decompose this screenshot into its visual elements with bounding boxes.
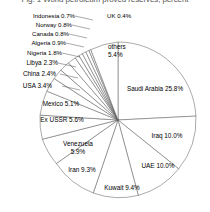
label-venezuela-name: Venezuela <box>63 140 93 147</box>
label-ex-ussr: Ex USSR 5.6% <box>40 116 84 123</box>
label-others-pct: 5.4% <box>108 51 123 58</box>
label-indonesia: Indonesia 0.7% <box>33 12 76 19</box>
leader-line-canada <box>69 34 87 38</box>
label-iran: Iran 9.3% <box>68 166 96 173</box>
label-venezuela-pct: 5.9% <box>71 148 86 155</box>
label-norway: Norway 0.8% <box>36 21 73 28</box>
label-canada: Canada 0.8% <box>32 30 70 37</box>
leader-line-indonesia <box>75 16 93 20</box>
leader-line-nigeria <box>62 53 80 57</box>
label-libya: Libya 2.3% <box>26 59 58 67</box>
label-algeria: Algeria 0.9% <box>31 39 66 46</box>
label-nigeria: Nigeria 1.8% <box>27 49 62 56</box>
leader-line-norway <box>72 25 90 29</box>
label-uae: UAE 10.0% <box>141 162 174 169</box>
label-usa: USA 3.4% <box>23 82 52 89</box>
label-uk: UK 0.4% <box>107 12 132 19</box>
label-saudi-arabia: Saudi Arabia 25.8% <box>127 85 183 92</box>
label-others-name: others <box>108 43 126 50</box>
pie-chart-svg: Indonesia 0.7% UK 0.4% Norway 0.8% Canad… <box>0 0 210 212</box>
pie-chart-figure: Fig. 1 World petroleum proved reserves, … <box>0 0 210 212</box>
leader-line-algeria <box>66 43 84 47</box>
label-iraq: Iraq 10.0% <box>152 132 183 140</box>
label-mexico: Mexico 5.1% <box>43 100 80 107</box>
pie-slice-saudi-arabia[interactable] <box>118 42 196 120</box>
label-china: China 2.4% <box>23 70 56 77</box>
chart-title: Fig. 1 World petroleum proved reserves, … <box>22 0 189 4</box>
chart-title-clipped: Fig. 1 World petroleum proved reserves, … <box>0 0 210 7</box>
label-kuwait: Kuwait 9.4% <box>104 184 140 191</box>
